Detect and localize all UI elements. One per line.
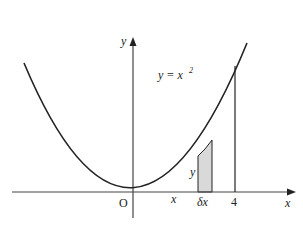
bound-label: 4 xyxy=(231,195,237,209)
strip-position-label: x xyxy=(170,192,177,206)
curve-exponent-label: 2 xyxy=(189,66,193,75)
parabola-diagram: y y = x 2 y O x δx 4 x xyxy=(0,0,303,232)
parabola-curve xyxy=(24,43,247,188)
x-axis-arrow-icon xyxy=(287,189,296,196)
x-axis-label: x xyxy=(284,196,291,210)
strip-height-label: y xyxy=(189,165,196,179)
y-axis-label: y xyxy=(120,34,127,48)
origin-label: O xyxy=(119,196,128,210)
shaded-strip xyxy=(198,140,212,192)
strip-width-label: δx xyxy=(197,195,209,209)
curve-equation-label: y = x xyxy=(157,68,183,82)
y-axis-arrow-icon xyxy=(130,37,137,46)
